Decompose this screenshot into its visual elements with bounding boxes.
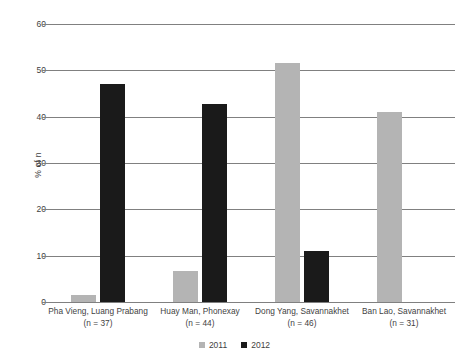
x-category-label-3: Ban Lao, Savannakhet(n = 31) bbox=[353, 306, 455, 329]
bar-2012-cat0 bbox=[100, 84, 125, 302]
category-name-3: Ban Lao, Savannakhet bbox=[353, 306, 455, 318]
category-count-3: (n = 31) bbox=[353, 318, 455, 330]
category-name-2: Dong Yang, Savannakhet bbox=[251, 306, 353, 318]
bar-2011-cat2 bbox=[275, 63, 300, 302]
category-count-1: (n = 44) bbox=[149, 318, 251, 330]
legend-label-2012: 2012 bbox=[251, 341, 270, 350]
plot-area bbox=[47, 24, 455, 302]
x-category-label-0: Pha Vieng, Luang Prabang(n = 37) bbox=[47, 306, 149, 329]
y-axis-tick-labels: 0102030405060 bbox=[8, 0, 46, 364]
category-name-0: Pha Vieng, Luang Prabang bbox=[47, 306, 149, 318]
legend-item-2011[interactable]: 2011 bbox=[199, 341, 227, 350]
bar-2011-cat0 bbox=[71, 295, 96, 302]
legend-label-2011: 2011 bbox=[209, 341, 227, 350]
bar-2012-cat2 bbox=[304, 251, 329, 302]
legend-swatch-icon-2011 bbox=[199, 342, 205, 348]
bar-2012-cat1 bbox=[202, 104, 227, 302]
x-category-label-1: Huay Man, Phonexay(n = 44) bbox=[149, 306, 251, 329]
legend-item-2012[interactable]: 2012 bbox=[241, 341, 270, 350]
x-category-label-2: Dong Yang, Savannakhet(n = 46) bbox=[251, 306, 353, 329]
y-tick-mark-0 bbox=[42, 302, 47, 303]
category-count-0: (n = 37) bbox=[47, 318, 149, 330]
x-axis-line bbox=[47, 302, 455, 303]
bar-series-group bbox=[47, 24, 455, 302]
bar-2011-cat3 bbox=[377, 112, 402, 302]
category-count-2: (n = 46) bbox=[251, 318, 353, 330]
category-name-1: Huay Man, Phonexay bbox=[149, 306, 251, 318]
x-axis-category-labels: Pha Vieng, Luang Prabang(n = 37)Huay Man… bbox=[47, 306, 455, 334]
legend-swatch-icon-2012 bbox=[241, 342, 247, 348]
bar-2011-cat1 bbox=[173, 271, 198, 302]
bar-chart: % of n 0102030405060 Pha Vieng, Luang Pr… bbox=[0, 0, 469, 364]
chart-legend: 20112012 bbox=[0, 341, 469, 350]
